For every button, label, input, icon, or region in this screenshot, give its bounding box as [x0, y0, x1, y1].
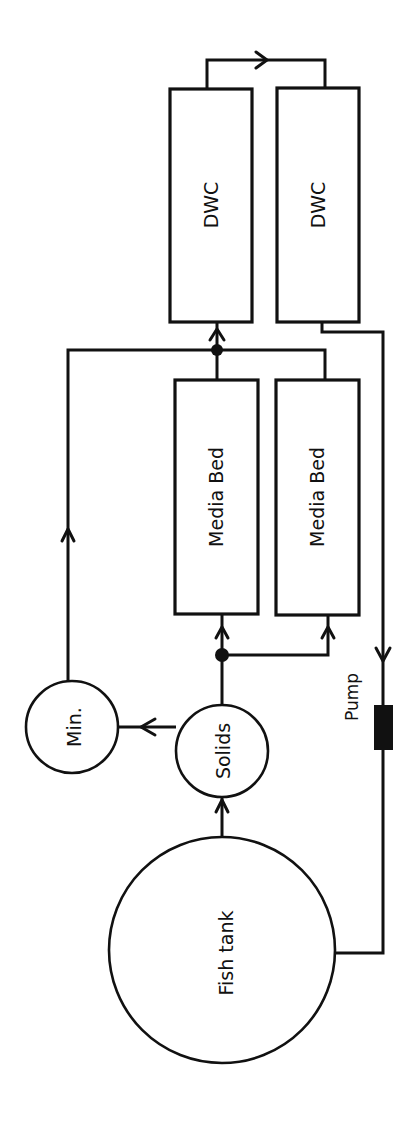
- media-bed-1-label: Media Bed: [205, 447, 227, 547]
- node-dwc-2: DWC: [277, 88, 359, 322]
- node-fish-tank: Fish tank: [109, 837, 335, 1063]
- node-media-bed-2: Media Bed: [276, 380, 359, 615]
- dwc-2-label: DWC: [307, 182, 329, 229]
- fish-tank-label: Fish tank: [215, 911, 237, 996]
- node-dwc-1: DWC: [170, 89, 252, 322]
- junction-dot: [215, 648, 229, 662]
- edge-junction-to-mediabed2: [222, 615, 328, 655]
- node-mineralization: Min.: [26, 681, 118, 773]
- dwc-1-label: DWC: [200, 182, 222, 229]
- node-solids: Solids: [176, 705, 268, 797]
- pump-icon: [374, 705, 393, 750]
- edge-dwc1-to-dwc2: [207, 60, 325, 89]
- pump-label: Pump: [342, 673, 362, 721]
- node-pump: Pump: [342, 673, 393, 750]
- node-media-bed-1: Media Bed: [175, 380, 258, 614]
- media-bed-2-label: Media Bed: [306, 447, 328, 547]
- min-label: Min.: [63, 707, 85, 747]
- aquaponics-flow-diagram: DWC DWC Media Bed Media Bed Min. Solids …: [0, 0, 420, 1131]
- solids-label: Solids: [212, 723, 234, 779]
- junction-dot: [211, 344, 223, 356]
